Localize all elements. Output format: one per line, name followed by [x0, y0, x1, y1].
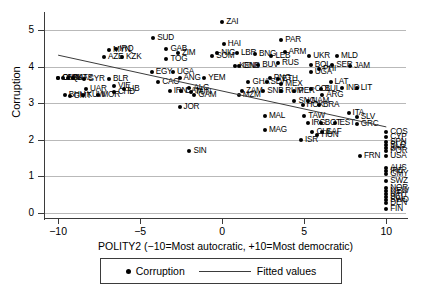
y-tick: [38, 213, 44, 214]
x-tick: [140, 219, 141, 224]
legend-label-corruption: Corruption: [136, 265, 185, 277]
x-tick: [222, 219, 223, 224]
y-tick-label: 4: [8, 62, 34, 72]
x-axis-line: [44, 218, 408, 219]
chart-root: Corruption 012345 −10−50510 CHKSAKOMNQAT…: [0, 0, 437, 290]
x-tick: [304, 219, 305, 224]
y-tick: [38, 103, 44, 104]
line-icon: [199, 271, 251, 272]
y-tick-label: 3: [8, 98, 34, 108]
y-tick-label: 5: [8, 25, 34, 35]
y-tick-label: 1: [8, 171, 34, 181]
y-tick-label: 2: [8, 135, 34, 145]
x-tick-label: −5: [120, 226, 160, 237]
x-tick-label: −10: [38, 226, 78, 237]
y-tick: [38, 30, 44, 31]
fitted-line: [45, 14, 406, 218]
filled-circle-icon: [126, 269, 131, 274]
y-tick: [38, 140, 44, 141]
y-tick: [38, 67, 44, 68]
x-tick-label: 5: [284, 226, 324, 237]
x-tick-label: 10: [366, 226, 406, 237]
legend-item-corruption: Corruption: [126, 265, 185, 277]
y-tick: [38, 176, 44, 177]
y-tick-label: 0: [8, 208, 34, 218]
chart-legend: Corruption Fitted values: [100, 258, 342, 284]
x-tick-label: 0: [202, 226, 242, 237]
x-axis-label: POLITY2 (−10=Most autocratic, +10=Most d…: [45, 240, 406, 252]
legend-item-fitted: Fitted values: [199, 265, 317, 277]
legend-label-fitted: Fitted values: [257, 265, 317, 277]
x-tick: [58, 219, 59, 224]
x-tick: [386, 219, 387, 224]
